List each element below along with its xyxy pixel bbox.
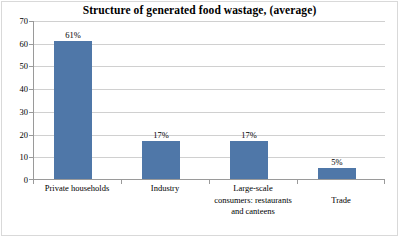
x-category-label-trade: Trade [297,195,385,207]
y-tick-label-20: 20 [2,131,28,140]
y-tick-mark-20 [29,135,33,136]
gridline-70 [33,21,385,22]
plot-area: 61% 17% 17% 5% [33,21,385,180]
y-tick-label-70: 70 [2,17,28,26]
y-tick-mark-40 [29,89,33,90]
y-tick-label-10: 10 [2,153,28,162]
bar-label-trade: 5% [318,158,356,167]
bar-large-scale-consumers[interactable] [230,141,268,179]
y-tick-mark-30 [29,112,33,113]
x-category-label-private-households: Private households [33,183,121,195]
y-tick-label-60: 60 [2,40,28,49]
bar-trade[interactable] [318,168,356,179]
bar-industry[interactable] [142,141,180,179]
x-category-label-industry: Industry [121,183,209,195]
y-tick-label-0: 0 [2,176,28,185]
chart-container: Structure of generated food wastage, (av… [0,0,399,237]
bar-private-households[interactable] [54,41,92,179]
y-tick-label-50: 50 [2,62,28,71]
y-tick-label-40: 40 [2,85,28,94]
chart-title: Structure of generated food wastage, (av… [0,4,399,16]
x-category-line: consumers: restaurants [207,195,299,207]
y-axis: 70 60 50 40 30 20 10 0 [0,21,28,180]
bar-label-large-scale-consumers: 17% [230,131,268,140]
y-tick-mark-70 [29,21,33,22]
x-axis: Private households Industry Large-scale … [33,183,385,233]
x-category-label-large-scale-consumers: Large-scale consumers: restaurants and c… [207,183,299,218]
x-category-line: Trade [297,195,385,207]
y-tick-label-30: 30 [2,108,28,117]
y-tick-mark-10 [29,157,33,158]
bar-label-private-households: 61% [54,31,92,40]
x-category-line: Large-scale [207,183,299,195]
bar-label-industry: 17% [142,131,180,140]
y-axis-line [33,21,34,180]
y-tick-mark-50 [29,66,33,67]
x-category-line: and canteens [207,206,299,218]
y-tick-mark-60 [29,44,33,45]
x-category-line: Private households [33,183,121,195]
x-category-line: Industry [121,183,209,195]
